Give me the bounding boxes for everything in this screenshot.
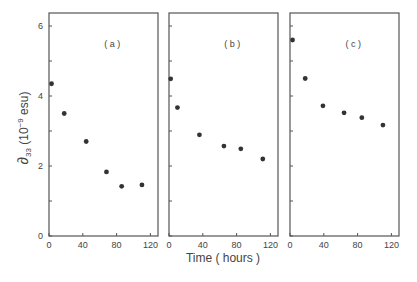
x-tick-label: 40	[198, 240, 208, 250]
x-tick-label: 0	[166, 240, 171, 250]
data-point	[238, 146, 243, 151]
y-tick-label: 4	[38, 91, 43, 101]
panel-label: ( b )	[224, 39, 240, 49]
x-tick-label: 120	[384, 240, 399, 250]
y-tick-label: 0	[38, 231, 43, 241]
data-point	[303, 76, 308, 81]
x-tick-label: 40	[319, 240, 329, 250]
data-point	[381, 123, 386, 128]
y-tick-label: 2	[38, 161, 43, 171]
x-tick-label: 0	[287, 240, 292, 250]
x-tick-label: 0	[46, 240, 51, 250]
data-point	[197, 132, 202, 137]
panel-b: 04080120( b )	[166, 13, 278, 250]
chart-figure: 024604080120( a )04080120( b )04080120( …	[0, 0, 417, 282]
data-point	[222, 144, 227, 149]
data-point	[359, 115, 364, 120]
x-tick-label: 40	[78, 240, 88, 250]
data-point	[104, 170, 109, 175]
data-point	[84, 139, 89, 144]
data-point	[140, 183, 145, 188]
panel-a: 024604080120( a )	[38, 13, 158, 250]
data-point	[62, 111, 67, 116]
data-point	[175, 105, 180, 110]
x-tick-label: 80	[112, 240, 122, 250]
x-tick-label: 120	[143, 240, 158, 250]
x-tick-label: 120	[263, 240, 278, 250]
y-tick-label: 6	[38, 21, 43, 31]
data-point	[168, 76, 173, 81]
panel-label: ( c )	[345, 39, 361, 49]
x-tick-label: 80	[353, 240, 363, 250]
data-point	[49, 81, 54, 86]
panel-c: 04080120( c )	[287, 13, 399, 250]
data-point	[342, 110, 347, 115]
y-axis-label: ∂33 (10−9 esu)	[14, 92, 33, 165]
data-point	[290, 38, 295, 43]
data-point	[119, 184, 124, 189]
data-point	[260, 157, 265, 162]
panel-label: ( a )	[104, 39, 120, 49]
x-tick-label: 80	[232, 240, 242, 250]
data-point	[321, 103, 326, 108]
x-axis-label: Time ( hours )	[186, 251, 260, 265]
